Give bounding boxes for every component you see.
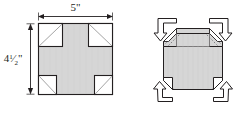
box-diagram-svg: 5" 41⁄2" bbox=[0, 0, 240, 114]
figure-container: 5" 41⁄2" bbox=[0, 0, 240, 114]
top-right-cut-square bbox=[89, 24, 113, 47]
top-left-cut-square bbox=[39, 24, 63, 47]
bottom-right-cut-square bbox=[95, 76, 113, 95]
height-unit-mark: " bbox=[18, 52, 23, 64]
bottom-left-cut-square bbox=[39, 76, 57, 95]
width-dimension-label: 5" bbox=[71, 1, 81, 13]
